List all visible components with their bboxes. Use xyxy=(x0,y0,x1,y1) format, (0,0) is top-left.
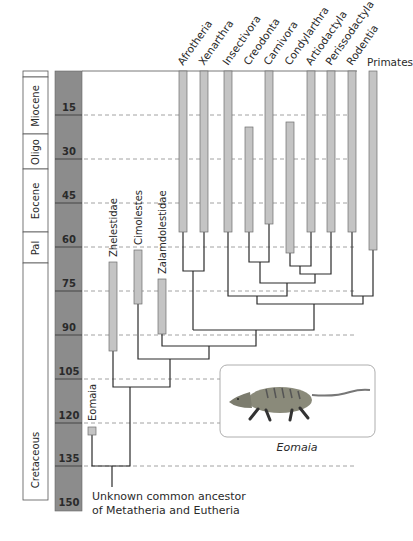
tick-75: 75 xyxy=(62,278,76,289)
epoch-oligo: Oligo xyxy=(30,139,41,165)
bar-rodentia xyxy=(348,71,356,232)
root-label-line2: of Metatheria and Eutheria xyxy=(92,504,240,517)
tick-150: 150 xyxy=(59,497,80,508)
tick-90: 90 xyxy=(62,322,76,333)
epoch-eocene: Eocene xyxy=(30,183,41,220)
bar-xenarthra xyxy=(200,71,208,232)
eomaia-caption: Eomaia xyxy=(277,441,318,454)
label-zhelestidae: Zhelestidae xyxy=(108,198,119,257)
bar-afrotheria xyxy=(179,71,187,232)
bar-eomaia xyxy=(88,427,96,435)
bar-primates xyxy=(369,71,377,250)
bar-artiodactyla xyxy=(307,71,315,232)
tick-60: 60 xyxy=(62,234,76,245)
tick-15: 15 xyxy=(62,102,76,113)
bar-zalamdolestidae xyxy=(158,279,166,334)
epoch-cretaceous: Cretaceous xyxy=(30,432,41,488)
bar-insectivora xyxy=(224,71,232,232)
bar-zhelestidae xyxy=(109,262,117,351)
label-primates: Primates xyxy=(367,56,413,68)
bar-perissodactyla xyxy=(327,71,335,232)
phylogeny-diagram: Miocene Oligo Eocene Pal Cretaceous 15 3… xyxy=(0,0,413,541)
epoch-miocene: Miocene xyxy=(30,85,41,127)
bar-creodonta xyxy=(245,127,253,232)
eomaia-illustration xyxy=(220,365,375,437)
tick-45: 45 xyxy=(62,190,76,201)
bar-condylarthra xyxy=(286,122,294,253)
root-label-line1: Unknown common ancestor xyxy=(92,490,246,503)
tick-135: 135 xyxy=(59,453,80,464)
tick-30: 30 xyxy=(62,146,76,157)
epoch-pal: Pal xyxy=(30,241,41,256)
tick-120: 120 xyxy=(59,410,80,421)
bar-cimolestes xyxy=(134,250,142,304)
tick-105: 105 xyxy=(59,366,80,377)
label-zalamdolestidae: Zalamdolestidae xyxy=(157,190,168,274)
label-cimolestes: Cimolestes xyxy=(133,190,144,245)
label-eomaia: Eomaia xyxy=(87,384,98,421)
bar-carnivora xyxy=(265,71,273,224)
